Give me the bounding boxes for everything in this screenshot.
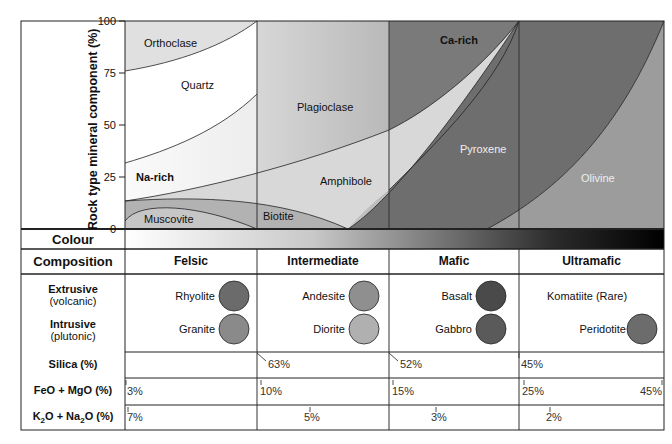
feo-10: 10% bbox=[260, 385, 282, 397]
y-tick-50: 50 bbox=[104, 119, 116, 131]
intrusive-label: Intrusive (plutonic) bbox=[21, 318, 125, 342]
y-tick-100: 100 bbox=[98, 15, 116, 27]
silica-45: 45% bbox=[521, 358, 543, 370]
rock-gabbro: Gabbro bbox=[435, 323, 472, 335]
rock-andesite: Andesite bbox=[302, 290, 345, 302]
colour-label: Colour bbox=[21, 232, 125, 247]
label-olivine: Olivine bbox=[581, 172, 615, 184]
feo-45: 45% bbox=[640, 385, 662, 397]
k2o-2: 2% bbox=[546, 411, 562, 423]
rock-basalt: Basalt bbox=[441, 290, 472, 302]
label-ca-rich: Ca-rich bbox=[440, 34, 478, 46]
label-quartz: Quartz bbox=[181, 79, 214, 91]
rock-granite: Granite bbox=[179, 323, 215, 335]
feo-15: 15% bbox=[392, 385, 414, 397]
y-tick-75: 75 bbox=[104, 67, 116, 79]
label-orthoclase: Orthoclase bbox=[144, 37, 197, 49]
label-biotite: Biotite bbox=[263, 210, 294, 222]
extrusive-title: Extrusive bbox=[48, 283, 98, 295]
chart-graphics bbox=[0, 0, 672, 444]
intrusive-title: Intrusive bbox=[50, 318, 96, 330]
feo-mgo-label: FeO + MgO (%) bbox=[21, 384, 125, 396]
label-muscovite: Muscovite bbox=[144, 213, 194, 225]
silica-63: 63% bbox=[268, 358, 290, 370]
rock-diorite: Diorite bbox=[313, 323, 345, 335]
k2o-na2o-label: K2O + Na2O (%) bbox=[21, 410, 125, 425]
silica-label: Silica (%) bbox=[21, 358, 125, 370]
colour-bar bbox=[125, 230, 664, 249]
feo-25: 25% bbox=[522, 385, 544, 397]
extrusive-subtitle: (volcanic) bbox=[21, 295, 125, 307]
y-tick-25: 25 bbox=[104, 171, 116, 183]
intrusive-subtitle: (plutonic) bbox=[21, 330, 125, 342]
rock-komatiite: Komatiite (Rare) bbox=[547, 290, 627, 302]
label-plagioclase: Plagioclase bbox=[297, 101, 353, 113]
silica-52: 52% bbox=[400, 358, 422, 370]
column-felsic: Felsic bbox=[125, 254, 257, 268]
column-mafic: Mafic bbox=[389, 254, 519, 268]
k2o-5: 5% bbox=[304, 411, 320, 423]
rock-peridotite: Peridotite bbox=[580, 323, 626, 335]
label-na-rich: Na-rich bbox=[136, 171, 174, 183]
extrusive-label: Extrusive (volcanic) bbox=[21, 283, 125, 307]
y-axis-label: Rock type mineral component (%) bbox=[86, 29, 100, 230]
column-intermediate: Intermediate bbox=[257, 254, 389, 268]
feo-3: 3% bbox=[127, 385, 143, 397]
k2o-3: 3% bbox=[431, 411, 447, 423]
label-pyroxene: Pyroxene bbox=[460, 143, 506, 155]
k2o-7: 7% bbox=[127, 411, 143, 423]
composition-label: Composition bbox=[21, 254, 125, 269]
rock-rhyolite: Rhyolite bbox=[175, 290, 215, 302]
label-amphibole: Amphibole bbox=[320, 175, 372, 187]
column-ultramafic: Ultramafic bbox=[519, 254, 664, 268]
